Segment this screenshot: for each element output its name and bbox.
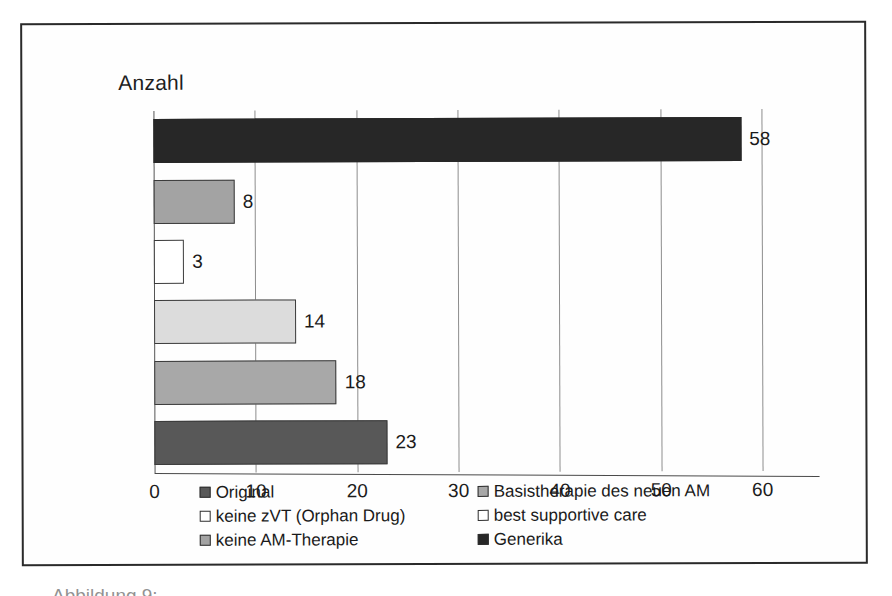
bar-value-label: 23 [395,431,416,453]
figure-caption: Abbildung 9: ... [52,585,179,596]
bar-row: 18 [154,359,762,405]
bar-row: 14 [154,298,762,344]
gridline-20 [356,110,358,472]
gridline-30 [457,110,459,472]
x-tick-label-0: 0 [149,481,160,503]
bar-row: 23 [154,419,762,465]
chart-title: Anzahl [118,71,183,95]
legend-swatch-icon [478,485,489,496]
bar-value-label: 8 [243,190,254,212]
legend-item[interactable]: keine zVT (Orphan Drug) [200,506,478,524]
legend-item[interactable]: keine AM-Therapie [200,530,478,548]
bar-value-label: 58 [749,128,770,150]
bar-value-label: 3 [192,251,203,273]
bar[interactable] [154,179,235,223]
legend-swatch-icon [200,510,211,521]
legend-label: Basistherapie des neuen AM [494,482,710,500]
x-axis-line [155,473,820,477]
legend-item[interactable]: Basistherapie des neuen AM [478,482,760,500]
gridline-0 [153,111,155,473]
bar-value-label: 18 [345,371,366,393]
gridline-60 [761,109,763,471]
bar-value-label: 14 [304,311,325,333]
legend-label: keine zVT (Orphan Drug) [216,507,406,525]
gridline-40 [559,110,561,472]
bar-row: 8 [154,178,762,224]
chart-legend: OriginalBasistherapie des neuen AMkeine … [200,478,760,552]
legend-label: keine AM-Therapie [216,531,359,548]
bar-row: 58 [153,117,761,163]
bar-row: 3 [154,238,762,284]
figure-frame: Anzahl 5883141823 0102030405060 Original… [20,21,868,567]
legend-label: Generika [494,530,563,547]
gridline-50 [660,109,662,471]
bar[interactable] [154,360,337,405]
legend-item[interactable]: best supportive care [478,506,760,524]
bar[interactable] [154,420,387,465]
legend-swatch-icon [478,509,489,520]
bar[interactable] [153,117,741,163]
plot-canvas: 5883141823 [153,109,762,473]
legend-swatch-icon [200,486,211,497]
gridlines [153,109,761,111]
bar[interactable] [154,240,185,284]
legend-swatch-icon [478,533,489,544]
legend-item[interactable]: Original [200,482,478,500]
gridline-10 [255,111,257,473]
legend-item[interactable]: Generika [478,530,760,548]
bar[interactable] [154,300,296,344]
legend-label: best supportive care [494,506,647,523]
legend-swatch-icon [200,534,211,545]
legend-label: Original [216,483,275,500]
plot-area: Anzahl 5883141823 0102030405060 [132,75,813,472]
